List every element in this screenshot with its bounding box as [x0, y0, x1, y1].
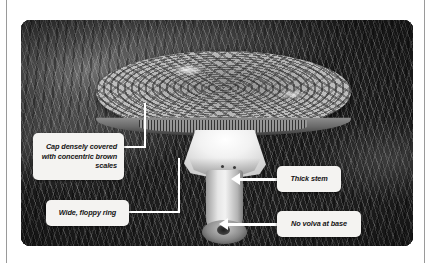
- stem-annotation-callout: Thick stem: [277, 166, 341, 192]
- stem-annotation-text: Thick stem: [290, 174, 327, 184]
- ring-leader-vertical: [178, 158, 180, 213]
- right-margin-rule: [424, 0, 425, 263]
- cap-annotation-text: Cap densely covered with concentric brow…: [39, 142, 117, 171]
- volva-annotation-callout: No volva at base: [277, 211, 361, 237]
- cap-leader-horizontal: [124, 146, 146, 148]
- cap-annotation-callout: Cap densely covered with concentric brow…: [33, 133, 124, 180]
- ring-annotation-text: Wide, floppy ring: [59, 208, 116, 218]
- ring-leader-horizontal: [129, 211, 180, 213]
- document-page: Cap densely covered with concentric brow…: [0, 0, 438, 263]
- volva-arrow-head: [219, 218, 228, 230]
- volva-annotation-text: No volva at base: [291, 219, 347, 229]
- stem-arrow-shaft: [240, 178, 277, 181]
- volva-arrow-shaft: [228, 223, 277, 226]
- cap-leader-vertical: [144, 103, 146, 148]
- left-margin-rule: [6, 0, 7, 263]
- stem-arrow-head: [231, 173, 240, 185]
- ring-annotation-callout: Wide, floppy ring: [46, 200, 129, 226]
